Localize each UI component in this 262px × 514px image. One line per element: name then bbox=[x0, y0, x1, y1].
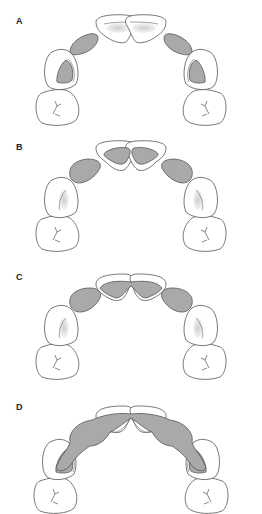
dental-arch-a bbox=[0, 0, 262, 130]
appliance-lateral-left bbox=[70, 159, 101, 183]
appliance-central-joined bbox=[100, 281, 162, 298]
molar-right bbox=[183, 90, 226, 126]
appliance-lateral-left bbox=[70, 288, 101, 312]
panel-a: A bbox=[0, 0, 262, 130]
dental-arch-c bbox=[0, 252, 262, 382]
appliance-lateral-left bbox=[70, 34, 98, 55]
panel-d: D bbox=[0, 380, 262, 514]
panel-b: B bbox=[0, 126, 262, 256]
appliance-lateral-right bbox=[161, 288, 192, 312]
dental-arch-d bbox=[0, 380, 262, 514]
dental-arch-b bbox=[0, 126, 262, 256]
appliance-continuous bbox=[56, 413, 206, 470]
appliance-lateral-right bbox=[162, 159, 193, 183]
panel-c: C bbox=[0, 252, 262, 382]
appliance-lateral-right bbox=[164, 34, 192, 55]
molar-left bbox=[36, 90, 79, 126]
